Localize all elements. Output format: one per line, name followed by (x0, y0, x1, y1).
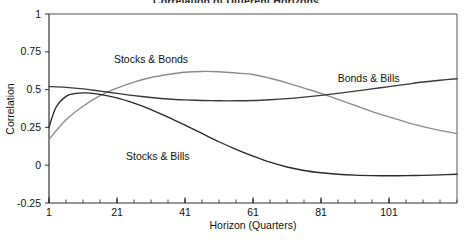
correlation-chart-figure: Correlation of Different Horizons 10.750… (0, 0, 472, 242)
y-axis-ticks: 10.750.50.250-0.25 (17, 8, 49, 209)
x-tick-label: 41 (179, 206, 191, 218)
x-tick-label: 81 (315, 206, 327, 218)
y-tick-label: 0 (35, 159, 41, 171)
plot-frame (49, 14, 457, 203)
y-axis-title: Correlation (4, 83, 16, 135)
x-tick-label: 61 (247, 206, 259, 218)
y-tick-label: 1 (35, 8, 41, 20)
y-tick-label: 0.75 (21, 45, 42, 57)
series-label-stocks-bills: Stocks & Bills (126, 150, 190, 162)
x-axis-ticks: 121416181101 (46, 198, 398, 219)
y-tick-label: -0.25 (17, 197, 41, 209)
x-axis-title: Horizon (Quarters) (210, 219, 297, 231)
y-tick-label: 0.5 (26, 83, 41, 95)
y-tick-label: 0.25 (21, 121, 42, 133)
x-tick-label: 101 (380, 206, 398, 218)
chart-canvas: 10.750.50.250-0.25 121416181101 Stocks &… (0, 0, 472, 242)
series-label-bonds-bills: Bonds & Bills (338, 72, 400, 84)
series-line-stocks-bills (49, 93, 457, 176)
series-annotations: Stocks & BondsBonds & BillsStocks & Bill… (114, 53, 400, 163)
x-tick-label: 21 (111, 206, 123, 218)
x-tick-label: 1 (46, 206, 52, 218)
series-lines (49, 71, 457, 175)
series-label-stocks-bonds: Stocks & Bonds (114, 53, 188, 65)
